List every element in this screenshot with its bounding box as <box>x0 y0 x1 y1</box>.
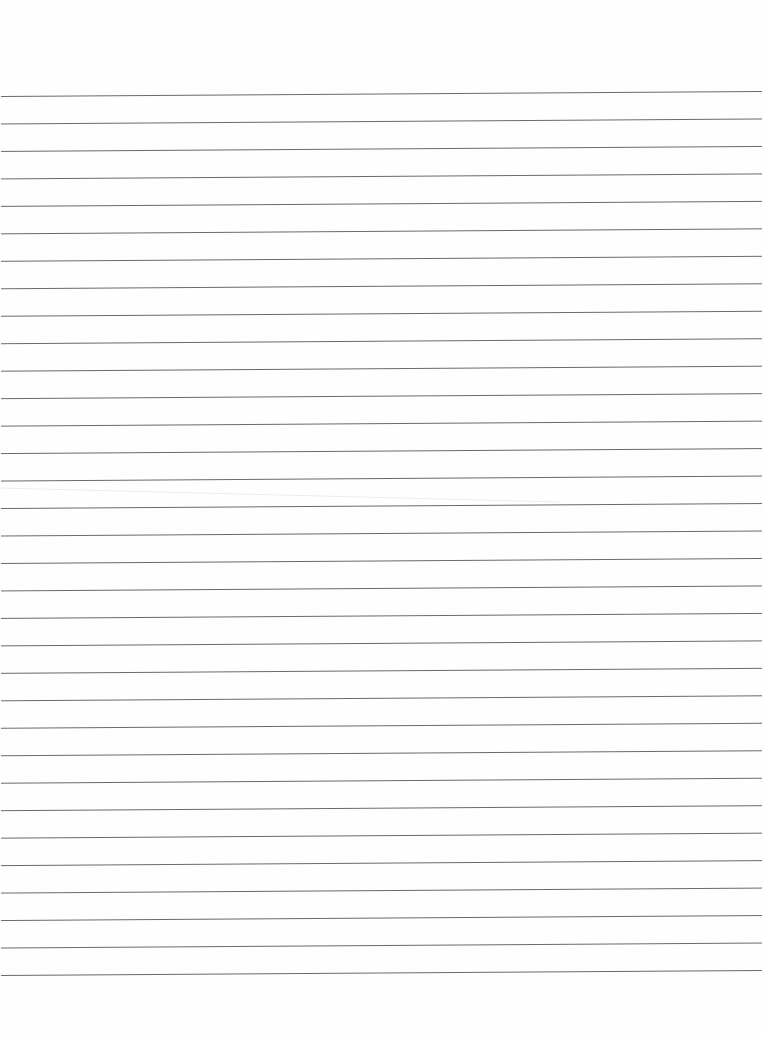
ruled-line <box>1 888 762 893</box>
ruled-line <box>1 449 762 454</box>
ruled-line <box>1 778 762 783</box>
ruled-line <box>1 504 762 509</box>
scan-artifact <box>0 488 560 502</box>
ruled-line <box>1 92 762 97</box>
ruled-line <box>1 943 762 948</box>
ruled-line <box>1 201 762 206</box>
ruled-line <box>1 668 762 673</box>
ruled-lines <box>0 0 763 1038</box>
ruled-line <box>1 586 762 591</box>
ruled-line <box>1 531 762 536</box>
ruled-line <box>1 421 762 426</box>
lined-paper-page: Blank lined paper <box>0 0 763 1038</box>
ruled-line <box>1 366 762 371</box>
ruled-line <box>1 476 762 481</box>
ruled-line <box>1 339 762 344</box>
ruled-line <box>1 256 762 261</box>
ruled-line <box>1 613 762 618</box>
ruled-line <box>1 119 762 124</box>
ruled-line <box>1 916 762 921</box>
ruled-line <box>1 558 762 563</box>
ruled-line <box>1 641 762 646</box>
ruled-line <box>1 174 762 179</box>
ruled-line <box>1 311 762 316</box>
ruled-line <box>1 971 762 976</box>
ruled-line <box>1 751 762 756</box>
ruled-line <box>1 723 762 728</box>
ruled-line <box>1 696 762 701</box>
ruled-line <box>1 284 762 289</box>
ruled-line <box>1 861 762 866</box>
ruled-line <box>1 833 762 838</box>
ruled-line <box>1 394 762 399</box>
ruled-line <box>1 806 762 811</box>
ruled-line <box>1 146 762 151</box>
ruled-line <box>1 229 762 234</box>
